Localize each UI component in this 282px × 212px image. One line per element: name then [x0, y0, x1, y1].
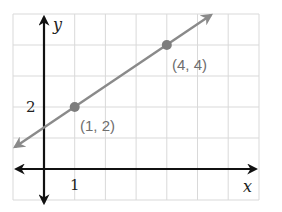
coordinate-plane: y x 1 2 (1, 2) (4, 4): [0, 0, 282, 212]
x-axis-label: x: [243, 177, 252, 196]
point-1-2: [70, 102, 80, 112]
x-tick-label-1: 1: [70, 176, 80, 194]
y-tick-label-2: 2: [26, 98, 36, 116]
point-4-4: [162, 40, 172, 50]
point-label-4-4: (4, 4): [172, 56, 207, 73]
grid: [13, 14, 259, 200]
point-label-1-2: (1, 2): [80, 117, 115, 134]
y-axis-label: y: [52, 15, 63, 34]
